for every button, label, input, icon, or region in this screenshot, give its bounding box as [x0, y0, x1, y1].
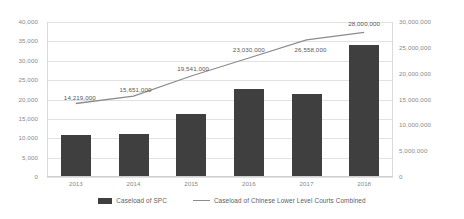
line-swatch-icon: [193, 200, 210, 201]
x-axis-tick-label: 2016: [224, 180, 274, 187]
combo-chart: 05,00010,00015,00020,00025,00030,00035,0…: [0, 0, 464, 219]
left-axis-tick-label: 30,000: [0, 57, 38, 64]
bar-swatch-icon: [98, 198, 112, 204]
line-data-label: 26,558,000: [295, 45, 327, 52]
line-data-label: 14,219,000: [64, 93, 96, 100]
x-axis-tick-label: 2015: [166, 180, 216, 187]
left-axis-tick-label: 25,000: [0, 76, 38, 83]
left-axis-tick-label: 0: [0, 173, 38, 180]
left-axis-tick-label: 15,000: [0, 115, 38, 122]
line-series: [47, 22, 393, 177]
right-axis-tick-label: 10,000,000: [399, 121, 431, 128]
right-axis-tick-label: 20,000,000: [399, 70, 431, 77]
line-data-label: 19,541,000: [177, 65, 209, 72]
left-axis-tick-label: 10,000: [0, 134, 38, 141]
x-axis-tick-label: 2017: [282, 180, 332, 187]
legend-item-spc[interactable]: Caseload of SPC: [98, 197, 167, 204]
left-axis-tick-label: 35,000: [0, 37, 38, 44]
right-axis-tick-label: 30,000,000: [399, 18, 431, 25]
x-axis-tick-label: 2018: [339, 180, 389, 187]
right-axis-tick-label: 0: [399, 173, 403, 180]
line-data-label: 23,030,000: [233, 46, 265, 53]
left-axis-tick-label: 5,000: [0, 154, 38, 161]
left-axis-tick-label: 20,000: [0, 96, 38, 103]
category-axis-line: [47, 176, 393, 177]
right-axis-tick-label: 25,000,000: [399, 44, 431, 51]
x-axis-tick-label: 2013: [51, 180, 101, 187]
right-axis-tick-label: 5,000,000: [399, 147, 427, 154]
legend-item-lower-courts[interactable]: Caseload of Chinese Lower Level Courts C…: [193, 197, 366, 204]
legend-label-lower-courts: Caseload of Chinese Lower Level Courts C…: [214, 197, 366, 204]
plot-area: 14,219,00015,651,00019,541,00023,030,000…: [47, 22, 393, 177]
right-axis-tick-label: 15,000,000: [399, 96, 431, 103]
gridline: [47, 177, 393, 178]
x-axis-tick-label: 2014: [109, 180, 159, 187]
chart-legend: Caseload of SPC Caseload of Chinese Lowe…: [0, 197, 464, 204]
legend-label-spc: Caseload of SPC: [116, 197, 167, 204]
line-data-label: 28,000,000: [348, 20, 380, 27]
left-axis-tick-label: 40,000: [0, 18, 38, 25]
line-data-label: 15,651,000: [120, 86, 152, 93]
